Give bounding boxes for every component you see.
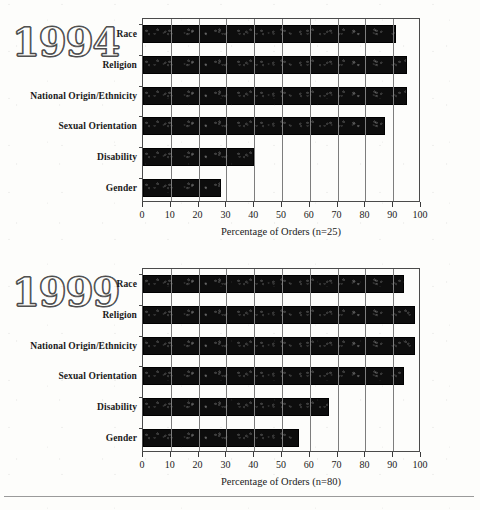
category-label: Religion	[102, 60, 137, 70]
gridline-80	[365, 269, 366, 451]
year-badge-1994: 1994	[12, 22, 119, 62]
x-axis-tick-label: 70	[332, 209, 342, 220]
bar	[143, 179, 221, 197]
x-axis-tick	[309, 452, 310, 457]
gridline-50	[282, 269, 283, 451]
x-axis-tick-label: 0	[140, 459, 145, 470]
category-label: Gender	[106, 433, 137, 443]
x-axis-tick-label: 20	[193, 459, 203, 470]
gridline-20	[199, 269, 200, 451]
x-axis-tick	[225, 452, 226, 457]
x-axis-tick-label: 40	[248, 459, 258, 470]
x-axis-tick-label: 40	[248, 209, 258, 220]
x-axis-tick	[309, 202, 310, 207]
year-badge-label: 1999	[12, 272, 119, 312]
x-axis-tick	[420, 202, 421, 207]
x-axis-tick	[225, 202, 226, 207]
x-axis-tick-label: 80	[359, 209, 369, 220]
x-axis-tick	[420, 452, 421, 457]
x-axis-tick-label: 60	[304, 209, 314, 220]
x-axis-tick	[392, 202, 393, 207]
x-axis-tick-label: 90	[387, 209, 397, 220]
category-label: Disability	[97, 402, 137, 412]
gridline-40	[254, 269, 255, 451]
x-axis-tick	[142, 202, 143, 207]
gridline-30	[226, 19, 227, 201]
x-axis-tick-label: 50	[276, 459, 286, 470]
x-axis-1994: 0102030405060708090100	[142, 202, 420, 228]
bar-series-1994: RaceReligionNational Origin/EthnicitySex…	[143, 19, 419, 201]
x-axis-tick-label: 90	[387, 459, 397, 470]
category-label: Gender	[106, 183, 137, 193]
category-label: Religion	[102, 310, 137, 320]
gridline-70	[338, 19, 339, 201]
x-axis-tick	[142, 452, 143, 457]
bar	[143, 306, 415, 324]
x-axis-tick	[253, 452, 254, 457]
x-axis-tick	[170, 202, 171, 207]
x-axis-tick	[364, 202, 365, 207]
x-axis-tick	[281, 202, 282, 207]
gridline-70	[338, 269, 339, 451]
x-axis-tick	[364, 452, 365, 457]
x-axis-title-1999: Percentage of Orders (n=80)	[142, 476, 420, 487]
gridline-60	[310, 269, 311, 451]
x-axis-tick	[253, 202, 254, 207]
gridline-40	[254, 19, 255, 201]
chart-figure-1999: 1999 RaceReligionNational Origin/Ethnici…	[0, 254, 480, 499]
category-label: National Origin/Ethnicity	[30, 91, 137, 101]
gridline-60	[310, 19, 311, 201]
x-axis-tick-label: 70	[332, 459, 342, 470]
x-axis-tick	[198, 202, 199, 207]
category-label: Disability	[97, 152, 137, 162]
gridline-80	[365, 19, 366, 201]
year-badge-1999: 1999	[12, 272, 119, 312]
gridline-20	[199, 19, 200, 201]
x-axis-tick-label: 100	[413, 459, 428, 470]
x-axis-tick-label: 10	[165, 209, 175, 220]
category-label: Sexual Orientation	[58, 371, 137, 381]
bar-series-1999: RaceReligionNational Origin/EthnicitySex…	[143, 269, 419, 451]
bar	[143, 56, 407, 74]
gridline-90	[393, 269, 394, 451]
document-page: 1994 RaceReligionNational Origin/Ethnici…	[0, 0, 480, 510]
x-axis-tick	[281, 452, 282, 457]
category-label: Race	[117, 29, 137, 39]
gridline-30	[226, 269, 227, 451]
x-axis-tick-label: 10	[165, 459, 175, 470]
x-axis-tick	[392, 452, 393, 457]
x-axis-tick-label: 80	[359, 459, 369, 470]
x-axis-tick-label: 100	[413, 209, 428, 220]
x-axis-tick-label: 30	[220, 459, 230, 470]
category-label: Race	[117, 279, 137, 289]
plot-area-1999: RaceReligionNational Origin/EthnicitySex…	[142, 268, 420, 452]
x-axis-tick-label: 30	[220, 209, 230, 220]
bar	[143, 429, 299, 447]
x-axis-tick-label: 50	[276, 209, 286, 220]
x-axis-title-1994: Percentage of Orders (n=25)	[142, 226, 420, 237]
chart-figure-1994: 1994 RaceReligionNational Origin/Ethnici…	[0, 4, 480, 249]
x-axis-tick	[337, 202, 338, 207]
x-axis-tick	[337, 452, 338, 457]
x-axis-tick-label: 20	[193, 209, 203, 220]
gridline-10	[171, 19, 172, 201]
category-label: Sexual Orientation	[58, 121, 137, 131]
page-footer-rule	[4, 496, 474, 497]
x-axis-tick	[170, 452, 171, 457]
bar	[143, 117, 385, 135]
bar	[143, 87, 407, 105]
x-axis-tick	[198, 452, 199, 457]
plot-area-1994: RaceReligionNational Origin/EthnicitySex…	[142, 18, 420, 202]
gridline-10	[171, 269, 172, 451]
x-axis-tick-label: 0	[140, 209, 145, 220]
gridline-50	[282, 19, 283, 201]
category-label: National Origin/Ethnicity	[30, 341, 137, 351]
x-axis-1999: 0102030405060708090100	[142, 452, 420, 478]
bar	[143, 25, 396, 43]
gridline-90	[393, 19, 394, 201]
x-axis-tick-label: 60	[304, 459, 314, 470]
bar	[143, 337, 415, 355]
year-badge-label: 1994	[12, 22, 119, 62]
